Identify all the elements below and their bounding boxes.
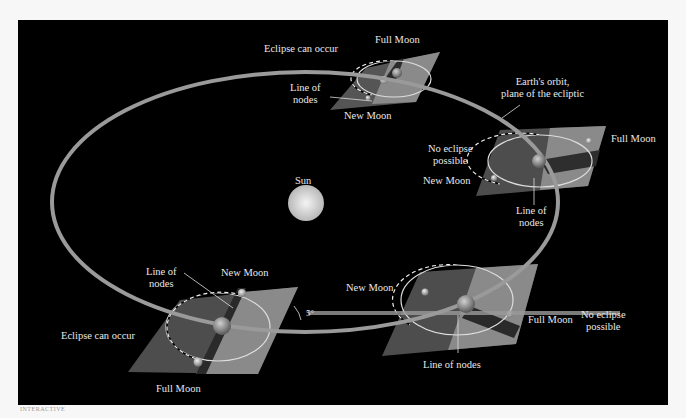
sun xyxy=(288,185,324,221)
label-bottom-left-new-moon: New Moon xyxy=(221,267,269,279)
plate-top xyxy=(330,52,440,110)
label-bottom-left-eclipse-status: Eclipse can occur xyxy=(61,330,135,342)
angle-arc xyxy=(294,306,301,320)
callout-ecliptic xyxy=(502,105,520,118)
label-top-new-moon: New Moon xyxy=(344,110,392,122)
label-sun: Sun xyxy=(295,175,311,187)
label-text: Earth's orbit, xyxy=(501,76,584,88)
label-text: Line of xyxy=(290,82,321,94)
label-text: Line of xyxy=(146,266,177,278)
moon-full-right xyxy=(586,138,592,144)
earth-bottom-left xyxy=(213,317,231,335)
eclipse-diagram xyxy=(0,0,686,418)
earth-top xyxy=(392,68,402,78)
label-angle: 5° xyxy=(306,307,314,319)
moon-new-bottom-left xyxy=(238,289,246,297)
label-bottom-right-eclipse-status: No eclipse possible xyxy=(581,309,626,333)
label-bottom-right-full-moon: Full Moon xyxy=(528,314,573,326)
label-right-full-moon: Full Moon xyxy=(611,133,656,145)
earth-right xyxy=(532,154,546,168)
label-bottom-left-nodes: Line of nodes xyxy=(146,266,177,290)
moon-new-right xyxy=(491,175,497,181)
earth-bottom-right xyxy=(457,295,475,313)
label-bottom-right-nodes: Line of nodes xyxy=(423,359,481,371)
interactive-logo: INTERACTIVE xyxy=(20,406,65,412)
label-top-eclipse-status: Eclipse can occur xyxy=(264,43,338,55)
label-bottom-right-new-moon: New Moon xyxy=(346,282,394,294)
label-text: No eclipse xyxy=(428,143,473,155)
label-text: nodes xyxy=(290,94,321,106)
label-text: Line of xyxy=(516,205,547,217)
label-top-nodes: Line of nodes xyxy=(290,82,321,106)
label-text: plane of the ecliptic xyxy=(501,88,584,100)
label-bottom-left-full-moon: Full Moon xyxy=(156,383,201,395)
label-right-eclipse-status: No eclipse possible xyxy=(428,143,473,167)
moon-full-bottom-left xyxy=(194,358,203,367)
label-right-nodes: Line of nodes xyxy=(516,205,547,229)
label-text: No eclipse xyxy=(581,309,626,321)
label-top-full-moon: Full Moon xyxy=(375,34,420,46)
label-text: nodes xyxy=(146,278,177,290)
label-text: nodes xyxy=(516,217,547,229)
label-text: possible xyxy=(428,155,473,167)
label-text: possible xyxy=(581,321,626,333)
label-right-new-moon: New Moon xyxy=(423,175,471,187)
moon-new-bottom-right xyxy=(422,289,429,296)
moon-new-top xyxy=(366,96,371,101)
label-ecliptic: Earth's orbit, plane of the ecliptic xyxy=(501,76,584,100)
